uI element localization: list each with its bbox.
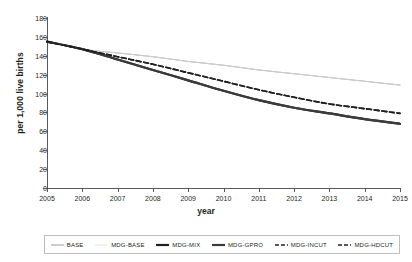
chart-legend: BASEMDG-BASEMDG-MIXMDG-GPROMDG-INCUTMDG-… — [44, 235, 400, 254]
legend-label: MDG-HDCUT — [354, 242, 393, 248]
legend-item-base[interactable]: BASE — [51, 242, 84, 248]
legend-swatch-icon — [51, 242, 64, 248]
legend-label: MDG-GPRO — [228, 242, 263, 248]
plot-area: 020406080100120140160180 200520062007200… — [0, 0, 412, 225]
series-line-mdg-gpro — [47, 42, 400, 124]
legend-swatch-icon — [275, 242, 288, 248]
legend-label: MDG-BASE — [111, 242, 145, 248]
legend-swatch-icon — [212, 242, 225, 248]
legend-label: MDG-INCUT — [291, 242, 327, 248]
legend-label: MDG-MIX — [172, 242, 200, 248]
legend-item-mdg-mix[interactable]: MDG-MIX — [156, 242, 200, 248]
legend-item-mdg-base[interactable]: MDG-BASE — [95, 242, 145, 248]
series-line-mdg-base — [47, 42, 400, 85]
series-line-mdg-hdcut — [47, 42, 400, 114]
legend-item-mdg-hdcut[interactable]: MDG-HDCUT — [338, 242, 393, 248]
legend-swatch-icon — [95, 242, 108, 248]
series-line-base — [47, 42, 400, 85]
legend-label: BASE — [67, 242, 84, 248]
legend-item-mdg-incut[interactable]: MDG-INCUT — [275, 242, 327, 248]
x-axis-title: year — [0, 206, 412, 216]
series-lines — [0, 0, 412, 225]
mortality-line-chart: 020406080100120140160180 200520062007200… — [0, 0, 412, 262]
legend-swatch-icon — [338, 242, 351, 248]
legend-item-mdg-gpro[interactable]: MDG-GPRO — [212, 242, 263, 248]
legend-swatch-icon — [156, 242, 169, 248]
